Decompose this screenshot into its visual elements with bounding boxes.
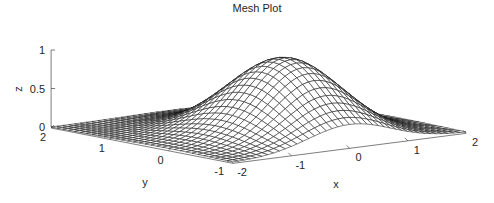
y-tick-label: 0 xyxy=(157,154,163,166)
y-axis-label: y xyxy=(142,176,148,188)
y-tick-label: 2 xyxy=(40,131,46,143)
mesh-surface xyxy=(51,57,466,161)
y-tick-label: -1 xyxy=(214,165,224,177)
mesh-plot: Mesh Plot 00.51210-1-2-1012 z y x xyxy=(0,0,494,203)
x-tick-label: 0 xyxy=(356,151,362,163)
z-tick-label: 0.5 xyxy=(30,83,45,95)
y-tick-label: 1 xyxy=(99,142,105,154)
z-tick-label: 1 xyxy=(39,44,45,56)
x-tick-label: 2 xyxy=(472,136,478,148)
chart-title: Mesh Plot xyxy=(233,2,282,14)
x-axis-label: x xyxy=(333,178,339,190)
x-tick-label: -1 xyxy=(295,159,305,171)
x-tick-label: -2 xyxy=(237,166,247,178)
z-axis-label: z xyxy=(12,86,24,92)
mesh-plot-canvas: Mesh Plot 00.51210-1-2-1012 z y x xyxy=(0,0,494,203)
x-tick-label: 1 xyxy=(414,144,420,156)
